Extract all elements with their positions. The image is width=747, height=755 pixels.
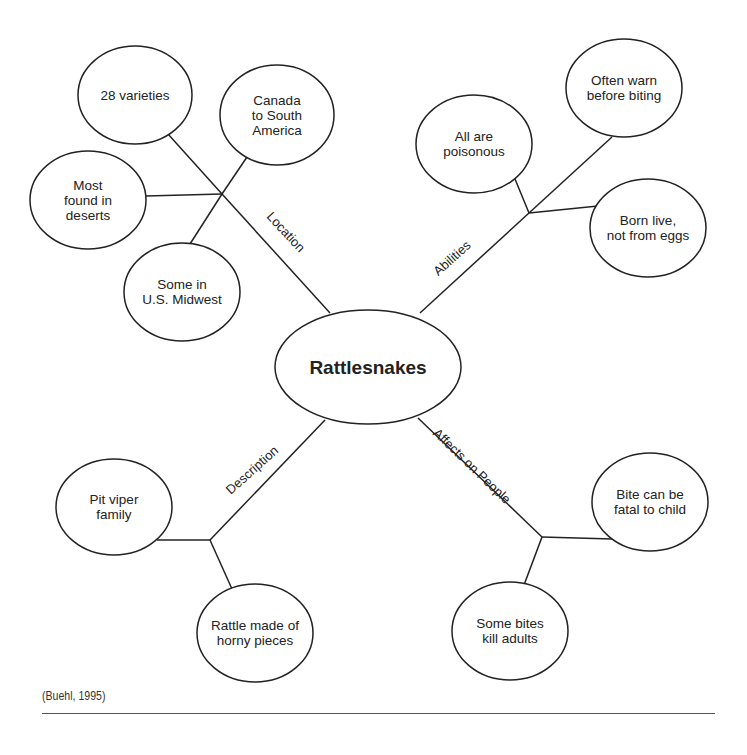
node-text-line: Often warn <box>591 73 657 88</box>
concept-node-bite-can-be-fatal-to-child: Bite can befatal to child <box>592 453 708 551</box>
node-text-line: to South <box>252 108 302 123</box>
node-text-line: Some bites <box>476 616 544 631</box>
node-text-line: before biting <box>587 88 661 103</box>
node-connector <box>515 179 529 213</box>
node-text-line: kill adults <box>482 631 538 646</box>
concept-node-rattle-made-of-horny-pieces: Rattle made ofhorny pieces <box>197 584 313 682</box>
node-connector <box>222 157 247 194</box>
node-text-line: Pit viper <box>90 492 139 507</box>
node-connector <box>168 134 222 194</box>
concept-node-pit-viper-family: Pit viperfamily <box>56 459 172 555</box>
node-text-line: All are <box>455 129 493 144</box>
node-text-line: America <box>252 123 302 138</box>
citation: (Buehl, 1995) <box>42 689 105 703</box>
concept-node-canada-to-south-america: Canadato SouthAmerica <box>220 65 334 165</box>
node-text-line: Rattle made of <box>211 618 299 633</box>
branch-label-abilities: Abilities <box>430 237 474 278</box>
node-text-line: Some in <box>157 277 207 292</box>
node-text-line: Bite can be <box>616 487 684 502</box>
node-text-line: Most <box>73 178 103 193</box>
node-connector <box>542 537 612 539</box>
node-text-line: found in <box>64 193 112 208</box>
concept-node-some-bites-kill-adults: Some biteskill adults <box>452 582 568 680</box>
rattlesnakes-concept-map: 28 varietiesCanadato SouthAmericaMostfou… <box>0 0 747 755</box>
branch-label-affects-on-people: Affects on People <box>430 425 514 506</box>
node-text-line: U.S. Midwest <box>142 292 222 307</box>
branch-label-description: Description <box>223 443 281 498</box>
node-connector <box>529 206 598 213</box>
concept-node-often-warn-before-biting: Often warnbefore biting <box>566 39 682 137</box>
central-topic: Rattlesnakes <box>275 310 461 424</box>
node-text-line: family <box>96 507 132 522</box>
concept-node-born-live-not-from-eggs: Born live,not from eggs <box>590 179 706 277</box>
concept-node-some-in-u-s-midwest: Some inU.S. Midwest <box>124 243 240 341</box>
branch-line-description <box>210 420 325 540</box>
node-text-line: fatal to child <box>614 502 686 517</box>
central-topic-label: Rattlesnakes <box>309 357 426 378</box>
node-connector <box>524 537 542 585</box>
node-text-line: horny pieces <box>217 633 294 648</box>
concept-node-28-varieties: 28 varieties <box>78 46 192 144</box>
node-text-line: 28 varieties <box>100 88 169 103</box>
node-text-line: Canada <box>253 93 301 108</box>
footer-divider <box>42 713 715 714</box>
concept-node-most-found-in-deserts: Mostfound indeserts <box>30 151 146 249</box>
node-text-line: deserts <box>66 208 111 223</box>
node-text-line: Born live, <box>620 213 676 228</box>
node-connector <box>210 540 232 589</box>
node-text-line: not from eggs <box>607 228 690 243</box>
node-connector <box>146 194 222 196</box>
concept-node-all-are-poisonous: All arepoisonous <box>416 95 532 193</box>
node-connector <box>190 194 222 244</box>
node-text-line: poisonous <box>443 144 505 159</box>
